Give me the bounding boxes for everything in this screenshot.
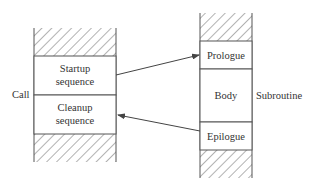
epilogue-label: Epilogue bbox=[207, 131, 245, 142]
call-label: Call bbox=[12, 89, 30, 100]
call-arrow-to-prologue bbox=[116, 55, 199, 75]
return-arrow-to-cleanup bbox=[118, 115, 200, 131]
caller-top-hatched-region bbox=[34, 28, 116, 56]
body-label: Body bbox=[215, 90, 239, 101]
caller-stack: Startup sequence Cleanup sequence Call bbox=[12, 28, 116, 162]
cleanup-label-line1: Cleanup bbox=[58, 102, 93, 113]
subroutine-top-hatched-region bbox=[200, 13, 252, 41]
startup-label-line1: Startup bbox=[60, 63, 90, 74]
prologue-label: Prologue bbox=[207, 50, 245, 61]
cleanup-label-line2: sequence bbox=[56, 115, 95, 126]
calling-sequence-diagram: Startup sequence Cleanup sequence Call P… bbox=[0, 0, 316, 186]
caller-bottom-hatched-region bbox=[34, 134, 116, 162]
startup-label-line2: sequence bbox=[56, 76, 95, 87]
subroutine-bottom-hatched-region bbox=[200, 150, 252, 178]
subroutine-label: Subroutine bbox=[256, 90, 302, 101]
subroutine-stack: Prologue Body Epilogue Subroutine bbox=[200, 13, 302, 178]
